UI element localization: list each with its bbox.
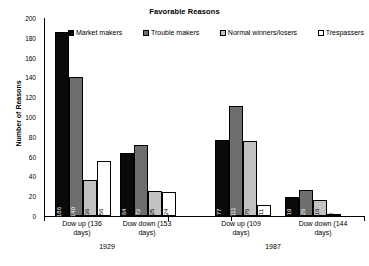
bar-value-label: 19 <box>286 209 292 216</box>
era-label-1987: 1987 <box>238 243 308 250</box>
bar-group-dow-up-1987: 77 111 76 11 <box>215 18 271 216</box>
bar-value-label: 64 <box>121 209 127 216</box>
x-axis-category-label-dow-down-1987: Dow down (144 days) <box>283 220 363 238</box>
bar-group-dow-down-1929: 64 72 25 24 <box>120 18 176 216</box>
bar-value-label: 186 <box>56 207 62 217</box>
plot-area: 186 140 36 56 64 72 25 24 <box>45 18 364 216</box>
era-label-1929: 1929 <box>72 243 142 250</box>
category-line-1: Dow up (109 <box>204 220 278 229</box>
y-tick-label: 40 <box>14 173 36 180</box>
y-tick-label: 60 <box>14 153 36 160</box>
bar: 76 <box>243 141 257 216</box>
bar: 140 <box>69 77 83 216</box>
y-tick-label: 20 <box>14 193 36 200</box>
x-axis-category-label-dow-down-1929: Dow down (153 days) <box>108 220 186 238</box>
x-axis-tick <box>364 216 365 221</box>
bar: 2 <box>327 214 341 216</box>
category-line-2: days) <box>204 229 278 238</box>
category-line-2: days) <box>108 229 186 238</box>
y-tick-label: 200 <box>14 15 36 22</box>
bar: 36 <box>83 180 97 216</box>
bar-group-dow-down-1987: 19 26 16 2 <box>285 18 341 216</box>
bar-value-label: 72 <box>135 209 141 216</box>
bar-value-label: 25 <box>149 209 155 216</box>
y-tick-label: 180 <box>14 34 36 41</box>
bar: 19 <box>285 197 299 216</box>
y-tick-label: 0 <box>14 213 36 220</box>
chart-container: Favorable Reasons Market makers Trouble … <box>0 0 369 266</box>
y-tick-label: 160 <box>14 54 36 61</box>
bar-value-label: 11 <box>258 209 264 215</box>
category-line-1: Dow down (153 <box>108 220 186 229</box>
bar-group-dow-up-1929: 186 140 36 56 <box>55 18 111 216</box>
bar-value-label: 36 <box>84 209 90 216</box>
bar: 186 <box>55 32 69 216</box>
bar-value-label: 76 <box>244 209 250 216</box>
bar-value-label: 16 <box>314 209 320 216</box>
category-line-2: days) <box>283 229 363 238</box>
y-axis-ticks: 200 180 160 140 120 100 80 60 40 20 0 <box>18 18 40 216</box>
bar: 56 <box>97 161 111 216</box>
bar: 77 <box>215 140 229 216</box>
bar: 111 <box>229 106 243 216</box>
y-tick-label: 120 <box>14 94 36 101</box>
bar: 72 <box>134 145 148 216</box>
y-tick-label: 80 <box>14 133 36 140</box>
x-axis-category-label-dow-up-1987: Dow up (109 days) <box>204 220 278 238</box>
x-axis-tick <box>44 216 45 221</box>
bar: 11 <box>257 205 271 216</box>
bar: 26 <box>299 190 313 216</box>
bar: 24 <box>162 192 176 216</box>
x-axis-line <box>44 216 364 217</box>
category-line-1: Dow down (144 <box>283 220 363 229</box>
bar-value-label: 2 <box>328 212 334 215</box>
bar: 64 <box>120 153 134 216</box>
y-tick-label: 100 <box>14 114 36 121</box>
bar-value-label: 77 <box>216 209 222 216</box>
bar-value-label: 56 <box>98 209 104 216</box>
bar: 16 <box>313 200 327 216</box>
bar: 25 <box>148 191 162 216</box>
bar-value-label: 140 <box>70 207 76 217</box>
bar-value-label: 24 <box>163 209 169 216</box>
chart-title: Favorable Reasons <box>0 7 369 16</box>
bar-value-label: 26 <box>300 209 306 216</box>
y-tick-label: 140 <box>14 74 36 81</box>
